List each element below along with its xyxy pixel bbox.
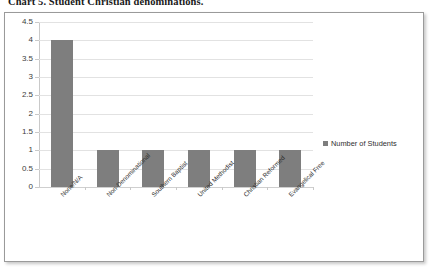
y-axis-tick-label: 3.5 xyxy=(22,55,33,63)
y-axis-tick-label: 1.5 xyxy=(22,128,33,136)
gridline xyxy=(39,77,313,78)
y-axis-tick-label: 0 xyxy=(29,183,33,191)
x-axis-tick xyxy=(267,187,268,190)
y-axis-tick-label: 3 xyxy=(29,73,33,81)
x-axis-tick xyxy=(222,187,223,190)
y-axis-tick-label: 1 xyxy=(29,146,33,154)
y-axis-tick-label: 4.5 xyxy=(22,18,33,26)
y-axis-tick xyxy=(35,59,39,60)
y-axis-tick-label: 2.5 xyxy=(22,91,33,99)
gridline xyxy=(39,150,313,151)
gridline xyxy=(39,132,313,133)
y-axis-tick-label: 2 xyxy=(29,110,33,118)
y-axis-tick xyxy=(35,40,39,41)
legend-swatch-icon xyxy=(323,141,328,146)
y-axis-tick xyxy=(35,132,39,133)
chart-legend: Number of Students xyxy=(323,139,397,148)
y-axis-tick-label: 0.5 xyxy=(22,165,33,173)
y-axis-labels: 00.511.522.533.544.5 xyxy=(5,13,33,213)
gridline xyxy=(39,59,313,60)
bar xyxy=(51,40,73,187)
y-axis-tick xyxy=(35,114,39,115)
gridline xyxy=(39,95,313,96)
gridline xyxy=(39,40,313,41)
y-axis-tick xyxy=(35,77,39,78)
y-axis-tick xyxy=(35,187,39,188)
x-axis-tick xyxy=(176,187,177,190)
gridline xyxy=(39,114,313,115)
gridline xyxy=(39,22,313,23)
y-axis-tick xyxy=(35,95,39,96)
x-axis-tick xyxy=(130,187,131,190)
y-axis-tick xyxy=(35,169,39,170)
y-axis-tick xyxy=(35,22,39,23)
chart-frame: 00.511.522.533.544.5 None/N/ANon-Denomin… xyxy=(4,12,424,262)
y-axis-tick-label: 4 xyxy=(29,36,33,44)
x-axis-tick xyxy=(313,187,314,190)
y-axis-tick xyxy=(35,150,39,151)
legend-label: Number of Students xyxy=(331,139,397,148)
x-axis-tick xyxy=(85,187,86,190)
chart-caption: Chart 5. Student Christian denominations… xyxy=(8,0,203,7)
